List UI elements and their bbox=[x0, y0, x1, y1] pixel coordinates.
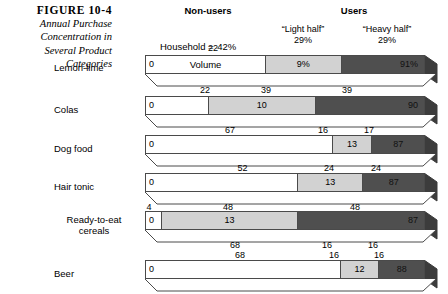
tick-beer-16b: 16 bbox=[356, 251, 402, 260]
tick-colas-17: 17 bbox=[345, 126, 393, 135]
category-label-hair-tonic: Hair tonic bbox=[54, 181, 140, 192]
segment-light-half-cereals: 13 bbox=[161, 212, 297, 229]
tick-beer-68: 68 bbox=[145, 251, 335, 260]
segment-value-heavy-cereals: 87 bbox=[298, 216, 424, 225]
tick-lemon-lime-nonusers: 22 bbox=[153, 44, 273, 53]
segment-heavy-half-beer: 88 bbox=[378, 261, 424, 278]
segment-light-half-beer: 12 bbox=[340, 261, 379, 278]
segment-nonusers-hair-tonic: 0 bbox=[146, 174, 297, 191]
bar-3d-base-beer bbox=[145, 278, 445, 294]
category-label-cereals-line1: Ready-to-eat bbox=[67, 214, 122, 225]
segment-light-half-dog-food: 13 bbox=[332, 136, 372, 153]
segment-nonusers-cereals: 0 bbox=[146, 212, 161, 229]
bar-front-colas: 0 10 90 bbox=[145, 96, 425, 115]
tick-cereals-68: 68 bbox=[145, 241, 325, 250]
segment-value-nonusers-dog-food: 0 bbox=[149, 140, 154, 149]
segment-heavy-half-colas: 90 bbox=[315, 97, 424, 114]
segment-value-heavy-lemon-lime: 91% bbox=[342, 60, 424, 69]
segment-value-light-colas: 10 bbox=[209, 101, 315, 110]
segment-heavy-half-dog-food: 87 bbox=[371, 136, 424, 153]
segment-value-light-dog-food: 13 bbox=[333, 140, 372, 149]
tick-beer-16a: 16 bbox=[312, 251, 356, 260]
segment-light-half-colas: 10 bbox=[208, 97, 315, 114]
segment-value-nonusers-lemon-lime: 0 bbox=[149, 60, 154, 69]
segment-value-heavy-colas: 90 bbox=[316, 101, 424, 110]
category-label-colas: Colas bbox=[54, 104, 140, 115]
bar-front-lemon-lime: 0 Volume 9% 91% bbox=[145, 55, 425, 74]
category-label-cereals-line2: cereals bbox=[79, 225, 110, 236]
category-label-beer: Beer bbox=[54, 268, 140, 279]
tick-cereals-16a: 16 bbox=[305, 241, 349, 250]
segment-value-light-hair-tonic: 13 bbox=[298, 178, 363, 187]
segment-value-light-beer: 12 bbox=[341, 265, 379, 274]
bar-front-dog-food: 0 13 87 bbox=[145, 135, 425, 154]
segment-value-heavy-dog-food: 87 bbox=[372, 140, 424, 149]
bar-front-beer: 0 12 88 bbox=[145, 260, 425, 279]
segment-heavy-half-hair-tonic: 87 bbox=[362, 174, 424, 191]
segment-value-nonusers-hair-tonic: 0 bbox=[149, 178, 154, 187]
segment-value-heavy-hair-tonic: 87 bbox=[363, 178, 424, 187]
segment-value-nonusers-beer: 0 bbox=[149, 265, 154, 274]
segment-value-heavy-beer: 88 bbox=[379, 265, 424, 274]
tick-lemon-lime-39b: 39 bbox=[305, 86, 389, 95]
segment-light-half-hair-tonic: 13 bbox=[297, 174, 363, 191]
segment-value-light-cereals: 13 bbox=[162, 216, 297, 225]
segment-nonusers-beer: 0 bbox=[146, 261, 340, 278]
segment-caption-volume: Volume bbox=[146, 60, 265, 70]
segment-nonusers-lemon-lime: 0 Volume bbox=[146, 56, 265, 73]
tick-dog-food-24a: 24 bbox=[307, 164, 351, 173]
segment-value-nonusers-cereals: 0 bbox=[149, 216, 154, 225]
segment-heavy-half-lemon-lime: 91% bbox=[341, 56, 424, 73]
segment-light-half-lemon-lime: 9% bbox=[265, 56, 340, 73]
segment-nonusers-colas: 0 bbox=[146, 97, 208, 114]
segment-nonusers-dog-food: 0 bbox=[146, 136, 332, 153]
category-label-lemon-lime: Lemon-lime bbox=[54, 62, 140, 73]
tick-cereals-16b: 16 bbox=[350, 241, 396, 250]
segment-heavy-half-cereals: 87 bbox=[297, 212, 424, 229]
bar-front-cereals: 0 13 87 bbox=[145, 211, 425, 230]
tick-colas-67: 67 bbox=[145, 126, 315, 135]
segment-value-light-lemon-lime: 9% bbox=[266, 60, 340, 69]
tick-lemon-lime-39a: 39 bbox=[228, 86, 304, 95]
bar-front-hair-tonic: 0 13 87 bbox=[145, 173, 425, 192]
tick-colas-16: 16 bbox=[300, 126, 346, 135]
segment-value-nonusers-colas: 0 bbox=[149, 101, 154, 110]
tick-dog-food-24b: 24 bbox=[352, 164, 400, 173]
category-label-dog-food: Dog food bbox=[54, 143, 140, 154]
category-label-cereals: Ready-to-eat cereals bbox=[48, 214, 140, 236]
